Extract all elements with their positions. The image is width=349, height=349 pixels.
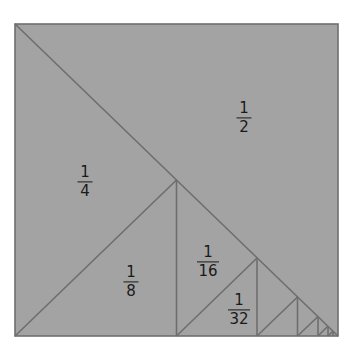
label-one-thirty-second: 1 32: [228, 292, 250, 327]
fraction-square-diagram: [0, 0, 349, 349]
label-one-sixteenth: 1 16: [197, 244, 219, 279]
denominator: 16: [198, 264, 217, 280]
denominator: 4: [80, 184, 90, 200]
numerator: 1: [80, 164, 90, 180]
label-one-half: 1 2: [237, 100, 252, 135]
label-one-eighth: 1 8: [124, 264, 139, 299]
numerator: 1: [239, 100, 249, 116]
denominator: 2: [239, 120, 249, 136]
denominator: 8: [126, 284, 136, 300]
numerator: 1: [203, 244, 213, 260]
denominator: 32: [229, 312, 248, 328]
label-one-quarter: 1 4: [78, 164, 93, 199]
numerator: 1: [126, 264, 136, 280]
numerator: 1: [234, 292, 244, 308]
